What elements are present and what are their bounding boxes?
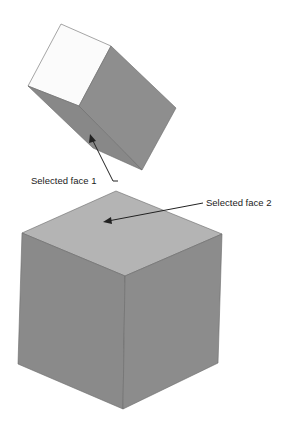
label-selected-face-2: Selected face 2	[206, 198, 272, 208]
lower-cube	[18, 191, 222, 409]
diagram-canvas	[0, 0, 291, 424]
upper-cube	[28, 24, 176, 170]
label-selected-face-1: Selected face 1	[31, 176, 97, 186]
